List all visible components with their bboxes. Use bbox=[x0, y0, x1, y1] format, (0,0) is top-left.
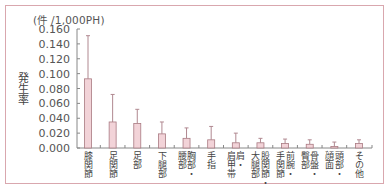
y-tick-label: 0.120 bbox=[39, 53, 71, 66]
y-tick-label: 0.060 bbox=[39, 97, 71, 110]
bar bbox=[208, 140, 215, 148]
y-tick-label: 0.140 bbox=[39, 38, 71, 51]
y-tick-label: 0.040 bbox=[39, 112, 71, 125]
bar bbox=[356, 144, 363, 148]
category-label: 前腕・ 手関節 bbox=[275, 151, 294, 178]
y-tick-label: 0.020 bbox=[39, 127, 71, 140]
bars bbox=[85, 36, 373, 148]
bar bbox=[232, 143, 239, 148]
category-label: 胸部・ 腰部 bbox=[177, 151, 196, 178]
category-label: 骨盤・ 臀部 bbox=[300, 151, 319, 178]
category-label: 下腿部 bbox=[157, 151, 167, 178]
bar bbox=[306, 144, 313, 148]
category-label: 頭部・ 顔面 bbox=[324, 151, 343, 178]
category-label: 膝関節 bbox=[83, 151, 93, 178]
bar bbox=[85, 79, 92, 148]
y-tick-label: 0.000 bbox=[39, 142, 71, 155]
category-label: その他 bbox=[354, 151, 364, 178]
bar bbox=[109, 122, 116, 148]
y-tick-label: 0.160 bbox=[39, 23, 71, 36]
bar bbox=[282, 144, 289, 148]
bar bbox=[331, 147, 338, 148]
bar bbox=[134, 123, 141, 148]
bar bbox=[158, 134, 165, 148]
bar bbox=[257, 143, 264, 148]
category-label: 手指 bbox=[206, 151, 216, 169]
category-label: 足関節 bbox=[108, 151, 118, 178]
y-tick-label: 0.100 bbox=[39, 68, 71, 81]
bar bbox=[183, 138, 190, 148]
category-label: 足部 bbox=[132, 151, 142, 169]
category-label: 肩・ 肩甲帯 bbox=[226, 151, 245, 178]
y-tick-label: 0.080 bbox=[39, 83, 71, 96]
category-label: 股関節・ 大腿部 bbox=[250, 151, 269, 187]
